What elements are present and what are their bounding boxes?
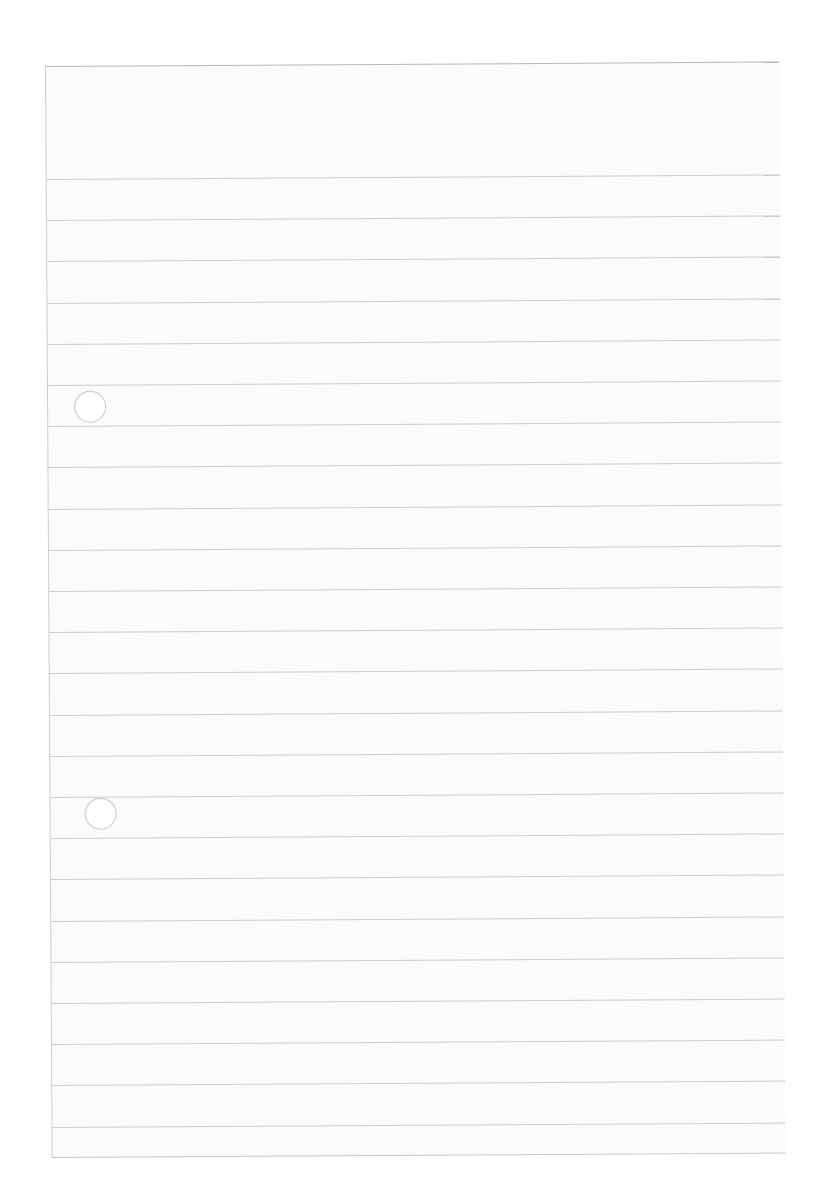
ruled-line [50,793,783,798]
ruled-line [51,916,784,921]
ruled-line [50,669,783,674]
ruled-line [47,257,780,262]
ruled-line [48,422,781,427]
ruled-line [49,545,782,550]
ruled-line [52,1122,785,1127]
lined-paper-sheet [45,62,786,1158]
ruled-line [51,875,784,880]
ruled-line [48,381,781,386]
ruled-line [50,751,783,756]
ruled-line [49,587,782,592]
ruled-line [47,216,780,221]
ruled-line [48,339,781,344]
ruled-line [47,298,780,303]
ruled-line [50,710,783,715]
ruled-line [47,175,780,180]
ruled-line [52,1040,785,1045]
punch-hole [84,798,116,830]
ruled-line [52,998,785,1003]
punch-hole [74,391,106,423]
ruled-line [52,1081,785,1086]
ruled-line [51,834,784,839]
ruled-line [49,504,782,509]
ruled-line [48,463,781,468]
ruled-line [51,957,784,962]
ruled-line [49,628,782,633]
